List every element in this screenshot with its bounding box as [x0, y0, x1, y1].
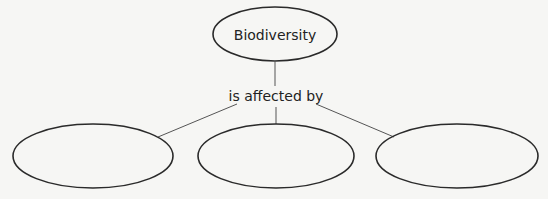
child-node-right[interactable]	[376, 124, 538, 188]
child-node-left[interactable]	[13, 124, 173, 188]
relation-label: is affected by	[229, 88, 324, 104]
child-node-middle[interactable]	[198, 124, 354, 188]
root-node-label: Biodiversity	[234, 27, 316, 43]
